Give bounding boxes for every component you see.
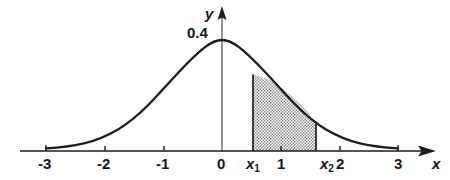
plot-canvas	[0, 0, 450, 180]
x-tick-label-2: 2	[336, 156, 344, 171]
x-tick-label-3: 3	[394, 156, 402, 171]
x-tick-label-1: 1	[277, 156, 285, 171]
x2-annotation-label: x2	[320, 156, 334, 174]
x-tick-label-0: 0	[217, 156, 225, 171]
x-tick-label--1: -1	[156, 156, 169, 171]
y-axis-label: y	[205, 6, 213, 21]
normal-distribution-figure: y 0.4 x -3 -2 -1 0 1 2 3 x1 x2	[0, 0, 450, 180]
x-tick-label--2: -2	[97, 156, 110, 171]
x-axis-label: x	[432, 156, 440, 171]
x-tick-label--3: -3	[38, 156, 51, 171]
x1-annotation-label: x1	[246, 156, 260, 174]
x2-annotation-subscript: 2	[328, 163, 334, 174]
shaded-area	[250, 70, 320, 155]
y-tick-label-0.4: 0.4	[187, 25, 208, 40]
x1-annotation-subscript: 1	[254, 163, 260, 174]
